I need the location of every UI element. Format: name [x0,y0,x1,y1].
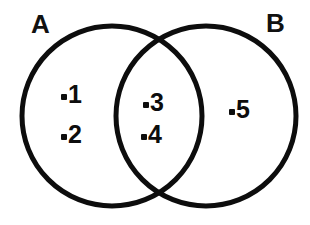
element-5: 5 [229,97,250,122]
element-value: 3 [150,90,164,115]
set-a-label: A [31,11,50,37]
bullet-dot-icon [229,109,235,115]
venn-diagram-figure: A B 1 2 3 4 5 [0,0,310,225]
bullet-dot-icon [61,94,67,100]
element-value: 1 [68,82,82,107]
bullet-dot-icon [143,102,149,108]
element-value: 2 [68,122,82,147]
element-value: 4 [148,122,162,147]
element-4: 4 [141,122,162,147]
element-2: 2 [61,122,82,147]
element-3: 3 [143,90,164,115]
element-1: 1 [61,82,82,107]
element-value: 5 [236,97,250,122]
bullet-dot-icon [61,134,67,140]
set-b-label: B [266,10,285,36]
bullet-dot-icon [141,134,147,140]
